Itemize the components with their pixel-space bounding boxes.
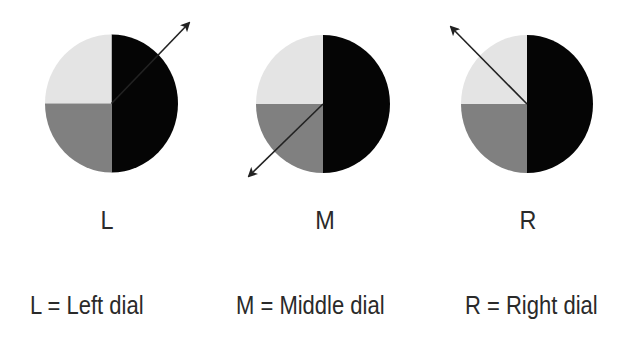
dial-black-half [323, 35, 390, 173]
dial-label-left: L [89, 205, 125, 235]
dial-black-half [527, 35, 593, 173]
dials-figure: L M R L = Left dial M = Middle dial R = … [0, 0, 640, 346]
dial-light-quadrant [256, 35, 323, 104]
dial-left [45, 23, 189, 173]
dial-light-quadrant [45, 35, 112, 104]
legend-left-dial: L = Left dial [30, 290, 144, 320]
dial-gray-quadrant [45, 104, 112, 173]
dial-label-right: R [510, 205, 546, 235]
dial-right [451, 27, 593, 173]
dial-label-middle: M [307, 205, 343, 235]
legend-right-dial: R = Right dial [465, 290, 598, 320]
legend-middle-dial: M = Middle dial [236, 290, 385, 320]
dial-gray-quadrant [461, 104, 527, 173]
dial-black-half [112, 35, 179, 173]
dial-middle [249, 35, 390, 176]
